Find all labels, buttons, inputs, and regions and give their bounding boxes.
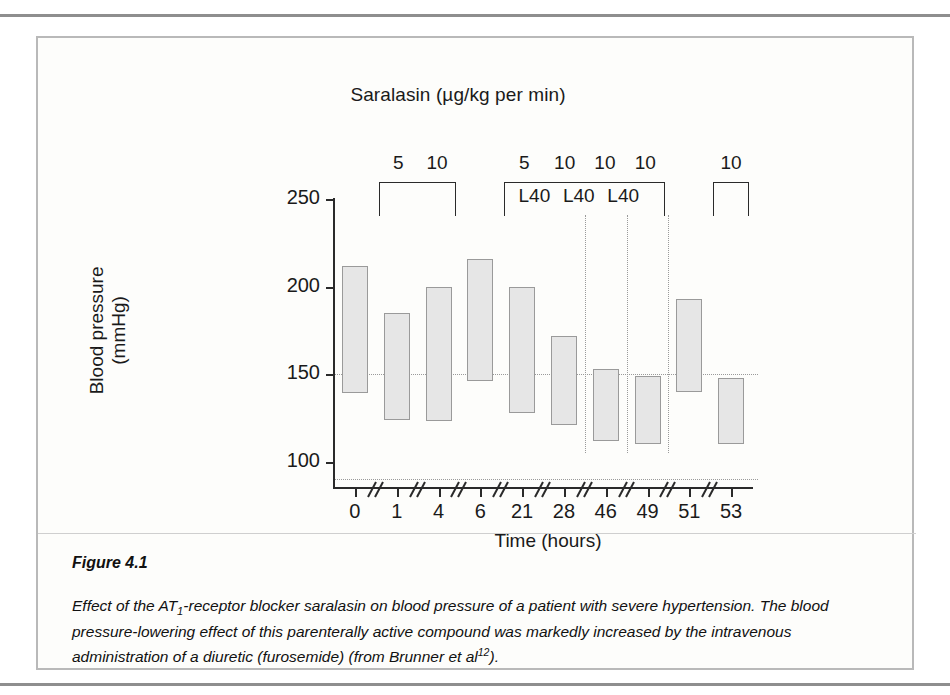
y-tick-label: 150 [260,361,320,384]
x-tick-label: 4 [419,500,459,523]
infusion-dose-label: 10 [585,152,625,174]
x-tick [689,489,691,497]
infusion-dose-label: 10 [417,152,457,174]
caption-block: Figure 4.1 Effect of the AT1-receptor bl… [72,554,884,670]
axis-break-mark [490,481,512,497]
bp-range-bar [384,313,410,420]
x-tick-label: 53 [711,500,751,523]
x-tick [480,489,482,497]
vertical-marker-line [668,215,669,453]
bp-range-bar [593,369,619,441]
axis-break-mark [532,481,554,497]
x-tick [564,489,566,497]
bp-range-bar [551,336,577,425]
bp-range-bar [426,287,452,422]
x-tick [397,489,399,497]
bp-range-bar [676,299,702,392]
y-axis-label: Blood pressure (mmHg) [86,215,131,445]
reference-line-diastolic-target [334,479,758,480]
caption-superscript: 12 [478,646,490,658]
x-tick [355,489,357,497]
y-axis-label-line2: (mmHg) [108,296,129,365]
axis-break-mark [699,481,721,497]
caption-part-3: ). [489,649,498,666]
bp-range-bar [718,378,744,445]
figure-number: Figure 4.1 [72,554,884,572]
infusion-dose-label: 10 [711,152,751,174]
y-axis-line [333,198,335,488]
vertical-marker-line [627,215,628,453]
bp-range-bar [467,259,493,382]
furosemide-label: L40 [510,185,558,207]
y-tick [326,287,333,289]
y-tick-label: 250 [260,186,320,209]
x-tick [439,489,441,497]
x-tick-label: 6 [460,500,500,523]
page-bottom-rule [0,683,950,686]
y-tick [326,374,333,376]
caption-divider [38,533,916,534]
furosemide-label: L40 [555,185,603,207]
bp-range-bar [635,376,661,444]
caption-part-1: Effect of the AT [72,597,177,614]
x-tick [606,489,608,497]
chart-plot-area: Saralasin (µg/kg per min) 5105101010L40L… [38,38,916,518]
x-tick-label: 21 [502,500,542,523]
infusion-dose-label: 5 [504,152,544,174]
figure-panel: Saralasin (µg/kg per min) 5105101010L40L… [36,36,914,670]
x-tick [731,489,733,497]
y-tick [326,199,333,201]
bracket-3 [713,182,749,216]
x-tick [522,489,524,497]
x-tick-label: 46 [586,500,626,523]
axis-break-mark [407,481,429,497]
axis-break-mark [657,481,679,497]
furosemide-label: L40 [599,185,647,207]
figure-caption: Effect of the AT1-receptor blocker saral… [72,594,884,670]
x-tick-label: 51 [669,500,709,523]
x-tick-label: 49 [628,500,668,523]
x-tick [648,489,650,497]
y-axis-label-line1: Blood pressure [86,267,107,395]
bp-range-bar [342,266,368,394]
y-tick [326,462,333,464]
bracket-1 [379,182,457,216]
axis-break-mark [574,481,596,497]
axis-break-mark [365,481,387,497]
infusion-dose-label: 10 [625,152,665,174]
caption-part-2: -receptor blocker saralasin on blood pre… [72,597,829,666]
axis-break-mark [616,481,638,497]
axis-break-mark [448,481,470,497]
infusion-dose-label: 5 [378,152,418,174]
x-tick-label: 1 [377,500,417,523]
y-tick-label: 100 [260,449,320,472]
vertical-marker-line [585,215,586,453]
x-tick-label: 0 [335,500,375,523]
infusion-dose-label: 10 [545,152,585,174]
page-top-rule [0,14,950,17]
bp-range-bar [509,287,535,413]
x-tick-label: 28 [544,500,584,523]
y-tick-label: 200 [260,274,320,297]
chart-title: Saralasin (µg/kg per min) [108,84,808,106]
